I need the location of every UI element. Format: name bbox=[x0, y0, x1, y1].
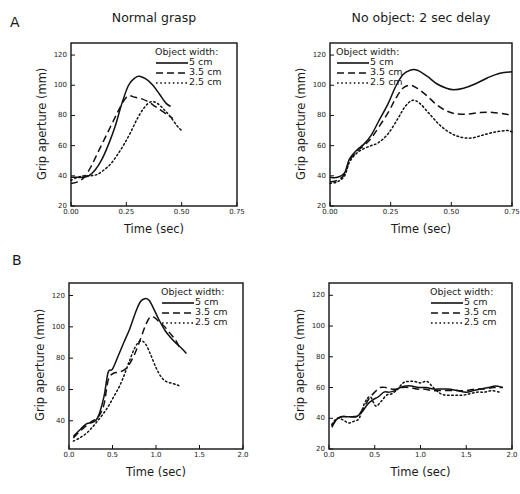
legend-label: 2.5 cm bbox=[189, 77, 222, 87]
x-tick-label: 0.5 bbox=[97, 451, 129, 459]
x-tick-label: 2.0 bbox=[227, 451, 259, 459]
legend-line-solid-icon bbox=[155, 57, 189, 67]
y-axis-title: Grip aperture (mm) bbox=[33, 309, 47, 421]
legend-item-dotted[interactable]: 2.5 cm bbox=[161, 317, 239, 327]
y-tick-label: 120 bbox=[43, 292, 65, 300]
legend-label: 2.5 cm bbox=[464, 317, 497, 327]
x-axis-title: Time (sec) bbox=[96, 465, 216, 479]
y-tick-label: 20 bbox=[303, 445, 325, 453]
series-line-dotted bbox=[73, 341, 180, 441]
legend-line-dashed-icon bbox=[161, 307, 195, 317]
x-tick-label: 0.5 bbox=[359, 451, 391, 459]
x-tick-label: 1.5 bbox=[184, 451, 216, 459]
x-tick-label: 0.75 bbox=[496, 208, 520, 216]
legend-panel-B-right: Object width:5 cm3.5 cm2.5 cm bbox=[430, 287, 508, 327]
y-axis-title: Grip aperture (mm) bbox=[294, 67, 308, 179]
legend-item-dotted[interactable]: 2.5 cm bbox=[155, 77, 233, 87]
y-tick-label: 20 bbox=[304, 202, 326, 210]
legend-line-dotted-icon bbox=[336, 77, 370, 87]
series-line-solid bbox=[71, 76, 171, 177]
x-axis-title: Time (sec) bbox=[361, 222, 481, 236]
x-tick-label: 0.75 bbox=[221, 208, 253, 216]
y-tick-label: 120 bbox=[303, 291, 325, 299]
x-tick-label: 1.0 bbox=[405, 451, 437, 459]
legend-line-dotted-icon bbox=[161, 317, 195, 327]
x-tick-label: 0.50 bbox=[166, 208, 198, 216]
legend-label: 2.5 cm bbox=[370, 77, 403, 87]
column-title-no-object-delay: No object: 2 sec delay bbox=[331, 10, 511, 25]
legend-label: 2.5 cm bbox=[195, 317, 228, 327]
y-axis-title: Grip aperture (mm) bbox=[293, 309, 307, 421]
y-tick-label: 120 bbox=[304, 51, 326, 59]
legend-line-solid-icon bbox=[161, 297, 195, 307]
x-tick-label: 1.5 bbox=[450, 451, 482, 459]
panel-label-b: B bbox=[12, 252, 22, 268]
y-tick-label: 20 bbox=[45, 202, 67, 210]
column-title-normal-grasp: Normal grasp bbox=[94, 10, 214, 25]
x-tick-label: 0.25 bbox=[375, 208, 407, 216]
figure-container: ABNormal graspNo object: 2 sec delay0.00… bbox=[0, 0, 520, 494]
y-tick-label: 120 bbox=[45, 51, 67, 59]
x-tick-label: 0.50 bbox=[435, 208, 467, 216]
panel-label-a: A bbox=[10, 14, 20, 30]
x-axis-title: Time (sec) bbox=[94, 222, 214, 236]
legend-line-dotted-icon bbox=[430, 317, 464, 327]
legend-line-dotted-icon bbox=[155, 77, 189, 87]
x-axis-title: Time (sec) bbox=[361, 465, 481, 479]
legend-item-dotted[interactable]: 2.5 cm bbox=[336, 77, 414, 87]
y-axis-title: Grip aperture (mm) bbox=[35, 67, 49, 179]
legend-line-dashed-icon bbox=[336, 67, 370, 77]
legend-line-dashed-icon bbox=[430, 307, 464, 317]
x-tick-label: 0.0 bbox=[53, 451, 85, 459]
x-tick-label: 0.25 bbox=[110, 208, 142, 216]
series-line-dashed bbox=[330, 85, 512, 182]
x-tick-label: 1.0 bbox=[140, 451, 172, 459]
legend-item-dotted[interactable]: 2.5 cm bbox=[430, 317, 508, 327]
series-line-dashed bbox=[71, 96, 173, 184]
legend-line-solid-icon bbox=[430, 297, 464, 307]
legend-panel-A-right: Object width:5 cm3.5 cm2.5 cm bbox=[336, 47, 414, 87]
legend-line-dashed-icon bbox=[155, 67, 189, 77]
x-tick-label: 2.0 bbox=[496, 451, 520, 459]
legend-panel-B-left: Object width:5 cm3.5 cm2.5 cm bbox=[161, 287, 239, 327]
legend-line-solid-icon bbox=[336, 57, 370, 67]
legend-panel-A-left: Object width:5 cm3.5 cm2.5 cm bbox=[155, 47, 233, 87]
